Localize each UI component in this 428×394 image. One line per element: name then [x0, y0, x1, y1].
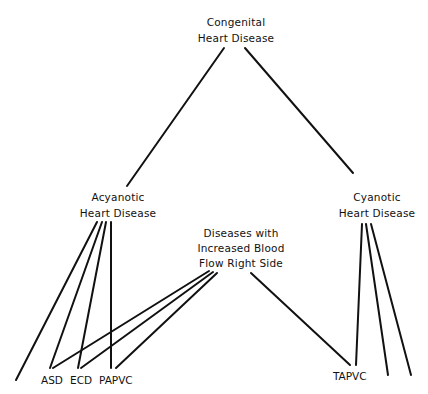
node-congenital-heart-disease: Congenital Heart Disease [186, 14, 286, 46]
leaf-papvc: PAPVC [99, 373, 133, 387]
edge-root-acyanotic [127, 48, 224, 186]
edge-acyanotic-ecd [78, 222, 106, 368]
node-acyanotic-heart-disease: Acyanotic Heart Disease [68, 189, 168, 221]
edge-acyanotic-unlabeled [16, 222, 97, 380]
edge-root-cyanotic [245, 48, 353, 173]
node-label-line: Flow Right Side [186, 256, 296, 271]
node-increased-blood-flow-right-side: Diseases with Increased Blood Flow Right… [186, 226, 296, 271]
node-cyanotic-heart-disease: Cyanotic Heart Disease [327, 189, 427, 221]
leaf-asd: ASD [41, 373, 63, 387]
node-label-line: Cyanotic [327, 189, 427, 205]
edge-cyanotic-tapvc [356, 224, 362, 365]
node-label-line: Heart Disease [327, 205, 427, 221]
node-label-line: Congenital [186, 14, 286, 30]
edge-acyanotic-asd [50, 222, 102, 368]
node-label-line: Heart Disease [68, 205, 168, 221]
node-label-line: Acyanotic [68, 189, 168, 205]
edge-flow-ecd [81, 272, 213, 368]
node-label-line: Increased Blood [186, 241, 296, 256]
node-label-line: Heart Disease [186, 30, 286, 46]
node-label-line: Diseases with [186, 226, 296, 241]
leaf-ecd: ECD [70, 373, 92, 387]
edge-flow-tapvc [251, 273, 350, 365]
leaf-tapvc: TAPVC [333, 369, 367, 383]
